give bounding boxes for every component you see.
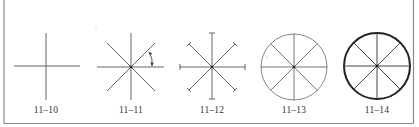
figure-label-11-13: 11–13 [274, 105, 314, 115]
figure-label-11-12: 11–12 [192, 105, 232, 115]
fig-11-14-heavy-wheel [344, 33, 410, 99]
fig-11-10-cross [14, 33, 80, 100]
angle-arc-icon [148, 52, 153, 67]
figure-label-11-14: 11–14 [357, 105, 397, 115]
figure-panel: 11–10 11–11 11–12 11–13 11–14 [0, 0, 419, 127]
figure-label-11-10: 11–10 [26, 105, 66, 115]
stray-dot [95, 28, 96, 29]
fig-11-12-capped-star [180, 33, 245, 99]
fig-11-11-star [97, 33, 164, 100]
fig-11-13-thin-wheel [261, 34, 327, 100]
figure-label-11-11: 11–11 [111, 105, 151, 115]
